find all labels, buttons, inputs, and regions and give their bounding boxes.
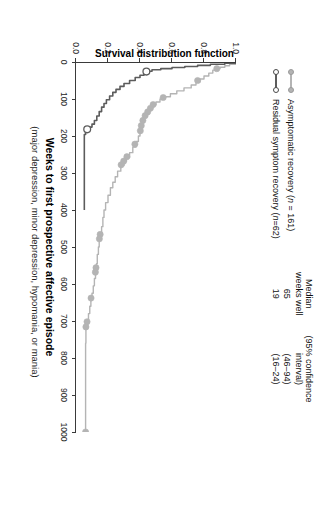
censored-observation-marker xyxy=(84,126,91,133)
x-tick-mark xyxy=(72,321,76,322)
x-tick-label: 300 xyxy=(59,166,69,180)
cell-ci-residual: (16–24) xyxy=(269,326,280,413)
y-axis-line xyxy=(76,62,236,63)
rotated-figure-canvas: Asymptomatic recovery (n = 161) Residual… xyxy=(0,0,322,528)
x-tick-label: 200 xyxy=(59,129,69,143)
survival-curve-line xyxy=(86,62,236,432)
censored-observation-marker xyxy=(195,77,201,83)
censored-observation-marker xyxy=(83,429,89,432)
x-tick-label: 100 xyxy=(59,92,69,106)
cell-median-residual: 19 xyxy=(269,262,280,326)
censored-observation-marker xyxy=(137,128,143,134)
table-header-row: Median weeks well (95% confidence interv… xyxy=(292,262,314,413)
y-axis-title: Survival distribution function xyxy=(70,48,260,59)
x-tick-mark xyxy=(72,395,76,396)
x-tick-mark xyxy=(72,210,76,211)
cell-median-asymptomatic: 65 xyxy=(281,262,292,326)
legend-label-asymptomatic: Asymptomatic recovery (n = 161) xyxy=(287,99,297,231)
x-tick-label: 700 xyxy=(59,314,69,328)
x-tick-mark xyxy=(72,432,76,433)
x-tick-label: 0 xyxy=(59,60,69,65)
cell-ci-asymptomatic: (46–94) xyxy=(281,326,292,413)
censored-observation-marker xyxy=(88,295,94,301)
x-tick-label: 400 xyxy=(59,203,69,217)
x-tick-mark xyxy=(72,247,76,248)
censored-observation-marker xyxy=(92,269,98,275)
legend-item-residual: Residual symptom recovery (n=62) xyxy=(270,68,283,239)
chart-legend: Asymptomatic recovery (n = 161) Residual… xyxy=(270,68,298,239)
censored-observation-marker xyxy=(118,162,124,168)
censored-observation-marker xyxy=(132,141,138,147)
censored-observation-marker xyxy=(214,66,220,72)
y-tick-mark xyxy=(107,58,108,62)
survival-curves-svg xyxy=(76,62,236,432)
legend-item-asymptomatic: Asymptomatic recovery (n = 161) xyxy=(285,68,298,239)
x-tick-mark xyxy=(72,284,76,285)
x-tick-mark xyxy=(72,173,76,174)
table-row: 19 (16–24) xyxy=(269,262,280,413)
x-tick-mark xyxy=(72,62,76,63)
legend-key-filled-circle-icon xyxy=(286,68,297,94)
table-row: 65 (46–94) xyxy=(281,262,292,413)
y-tick-mark xyxy=(75,58,76,62)
x-tick-label: 1000 xyxy=(59,423,69,442)
x-axis-subtitle: (major depression, minor depression, hyp… xyxy=(30,42,41,462)
survival-chart-figure: Asymptomatic recovery (n = 161) Residual… xyxy=(0,0,322,528)
censored-observation-marker xyxy=(96,236,102,242)
y-tick-mark xyxy=(203,58,204,62)
x-tick-label: 500 xyxy=(59,240,69,254)
x-axis-title: Weeks to first prospective affective epi… xyxy=(44,62,56,432)
x-tick-mark xyxy=(72,136,76,137)
column-header-median-weeks-well: Median weeks well xyxy=(292,262,314,326)
x-tick-mark xyxy=(72,99,76,100)
summary-stats-table: Median weeks well (95% confidence interv… xyxy=(269,262,314,413)
y-tick-mark xyxy=(139,58,140,62)
legend-label-residual: Residual symptom recovery (n=62) xyxy=(272,99,282,239)
y-tick-mark xyxy=(171,58,172,62)
x-tick-label: 800 xyxy=(59,351,69,365)
x-tick-mark xyxy=(72,358,76,359)
x-tick-label: 600 xyxy=(59,277,69,291)
censored-observation-marker xyxy=(143,68,150,75)
column-header-confidence-interval: (95% confidence interval) xyxy=(292,326,314,413)
plot-area: 01002003004005006007008009001000 0.00.20… xyxy=(76,62,236,432)
y-tick-mark xyxy=(235,58,236,62)
legend-key-open-circle-icon xyxy=(271,68,282,94)
survival-curve-line xyxy=(84,62,236,210)
x-tick-label: 900 xyxy=(59,388,69,402)
censored-observation-marker xyxy=(83,324,89,330)
censored-observation-marker xyxy=(160,94,166,100)
